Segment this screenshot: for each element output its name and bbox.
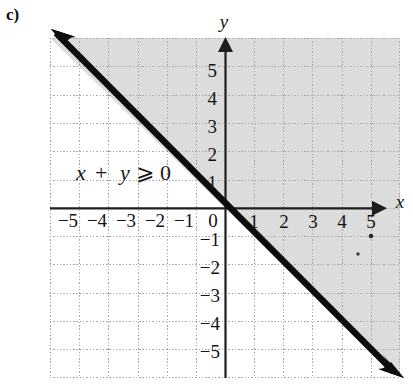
x-tick-label-5: 5 (366, 211, 376, 232)
y-tick-label--4: −4 (200, 313, 221, 334)
x-axis-label: x (395, 191, 405, 212)
y-tick-label-2: 2 (208, 144, 218, 165)
inequality-relation: ⩾ (136, 160, 154, 185)
y-axis-label: y (218, 11, 229, 32)
inequality-plus: + (95, 160, 107, 185)
x-tick-label-4: 4 (337, 211, 347, 232)
y-tick-label-4: 4 (208, 88, 218, 109)
y-tick-label-5: 5 (208, 60, 218, 81)
y-tick-label--5: −5 (200, 341, 220, 362)
stray-mark-2 (356, 252, 359, 255)
x-tick-label--4: −4 (87, 210, 108, 231)
x-tick-label--5: −5 (58, 210, 78, 231)
inequality-rhs: 0 (160, 160, 171, 185)
y-tick-label-3: 3 (208, 116, 218, 137)
y-tick-label--2: −2 (200, 257, 220, 278)
x-tick-label-1: 1 (249, 211, 259, 232)
inequality-lhs: x (75, 160, 86, 185)
x-tick-label-3: 3 (308, 211, 318, 232)
y-tick-label--1: −1 (200, 229, 220, 250)
inequality-var2: y (118, 160, 130, 185)
figure-panel: c) (0, 0, 413, 385)
y-tick-label-1: 1 (208, 172, 218, 193)
x-tick-label--2: −2 (145, 210, 165, 231)
stray-mark-1 (369, 234, 374, 239)
coordinate-plane-plot: −5 −4 −3 −2 −1 0 1 2 3 4 5 5 4 3 2 1 −1 … (0, 0, 413, 385)
x-tick-label--3: −3 (116, 210, 136, 231)
origin-label: 0 (208, 210, 218, 231)
x-tick-label-2: 2 (279, 211, 289, 232)
x-tick-label--1: −1 (174, 210, 194, 231)
y-tick-label--3: −3 (200, 285, 220, 306)
